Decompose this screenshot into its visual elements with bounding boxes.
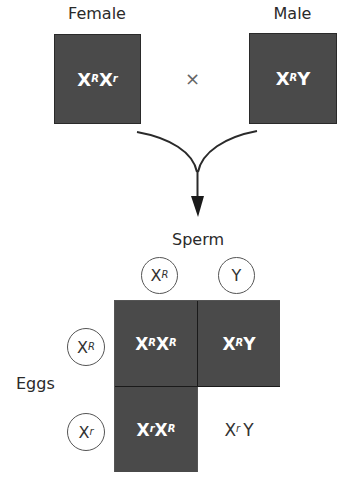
allele-base: Y — [243, 420, 253, 440]
punnett-cell-xrxr: XRXR — [115, 301, 198, 387]
allele-base: X — [78, 423, 89, 442]
allele-base: X — [77, 338, 88, 357]
allele-base: X — [151, 266, 162, 285]
allele-base: Y — [243, 334, 255, 354]
allele-base: X — [137, 420, 150, 440]
allele-base: X — [222, 334, 235, 354]
sperm-gamete-xr: XR — [141, 257, 178, 294]
sperm-gamete-y: Y — [218, 257, 255, 294]
punnett-cell-xrxr-het: XrXR — [115, 387, 198, 472]
allele-sup: r — [236, 423, 240, 434]
allele-base: X — [156, 334, 169, 354]
egg-gamete-xr-dominant: XR — [67, 328, 105, 366]
punnett-cell-xry: XRY — [198, 301, 280, 387]
punnett-square: XRXR XRY XrXR XrY — [114, 300, 280, 472]
allele-base: X — [135, 334, 148, 354]
allele-base: Y — [232, 266, 242, 285]
allele-sup: R — [162, 269, 169, 280]
eggs-label: Eggs — [16, 374, 66, 393]
allele-sup: r — [150, 423, 155, 434]
allele-base: X — [224, 420, 236, 440]
punnett-cell-xry-recessive: XrY — [198, 387, 280, 472]
allele-sup: R — [169, 337, 177, 348]
allele-sup: R — [236, 337, 244, 348]
allele-base: X — [155, 420, 168, 440]
allele-sup: R — [88, 341, 95, 352]
allele-sup: r — [89, 426, 93, 437]
egg-gamete-xr-recessive: Xr — [67, 413, 105, 451]
allele-sup: R — [168, 423, 176, 434]
sperm-label: Sperm — [158, 230, 238, 249]
converging-arrow-icon — [0, 0, 351, 230]
allele-sup: R — [148, 337, 156, 348]
